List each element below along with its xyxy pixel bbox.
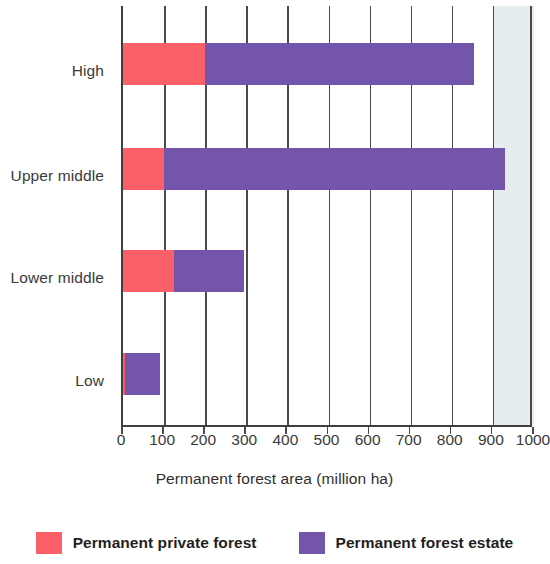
x-axis-title: Permanent forest area (million ha) <box>0 470 549 488</box>
y-axis-label-lower-middle: Lower middle <box>11 270 104 286</box>
ticklabel-500: 500 <box>314 432 340 448</box>
chart-legend: Permanent private forest Permanent fores… <box>0 528 549 558</box>
ticklabel-200: 200 <box>190 432 216 448</box>
ticklabel-100: 100 <box>149 432 175 448</box>
ticklabel-900: 900 <box>478 432 504 448</box>
plot-area <box>121 6 532 427</box>
gridline-1000 <box>530 6 532 425</box>
bar-segment-lower-middle-forest-estate <box>174 250 244 292</box>
legend-item-permanent-forest-estate: Permanent forest estate <box>299 532 514 554</box>
ticklabel-700: 700 <box>396 432 422 448</box>
bar-segment-low-forest-estate <box>125 353 160 395</box>
ticklabel-600: 600 <box>355 432 381 448</box>
legend-label-forest-estate: Permanent forest estate <box>336 534 514 552</box>
x-axis-ticklabels: 0 100 200 300 400 500 600 700 800 900 10… <box>0 432 549 456</box>
ticklabel-400: 400 <box>272 432 298 448</box>
gridline-900 <box>493 6 495 425</box>
legend-label-private-forest: Permanent private forest <box>73 534 257 552</box>
y-axis-label-high: High <box>72 63 104 79</box>
legend-swatch-forest-estate-icon <box>299 532 325 554</box>
y-axis-category-labels: High Upper middle Lower middle Low <box>0 6 113 427</box>
ticklabel-300: 300 <box>231 432 257 448</box>
ticklabel-0: 0 <box>117 432 126 448</box>
legend-swatch-private-forest-icon <box>36 532 62 554</box>
bar-segment-high-forest-estate <box>205 43 474 85</box>
ticklabel-800: 800 <box>437 432 463 448</box>
bar-segment-lower-middle-private-forest <box>123 250 174 292</box>
y-axis-label-low: Low <box>75 373 104 389</box>
ticklabel-1000: 1000 <box>516 432 550 448</box>
bar-segment-high-private-forest <box>123 43 205 85</box>
legend-item-permanent-private-forest: Permanent private forest <box>36 532 257 554</box>
bar-segment-upper-middle-forest-estate <box>164 148 505 190</box>
bar-segment-upper-middle-private-forest <box>123 148 164 190</box>
y-axis-label-upper-middle: Upper middle <box>11 168 104 184</box>
shaded-band-900-1000 <box>493 6 534 425</box>
